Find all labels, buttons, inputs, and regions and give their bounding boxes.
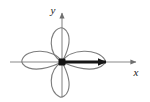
axes-group — [10, 13, 136, 97]
figure-canvas: y x — [0, 0, 150, 102]
petal-bottom — [51, 62, 69, 97]
polar-rose-figure: y x — [0, 0, 150, 102]
x-axis-label: x — [133, 66, 139, 78]
origin-square-dot — [59, 59, 66, 66]
petal-right — [62, 51, 105, 69]
y-axis-label: y — [50, 4, 56, 16]
